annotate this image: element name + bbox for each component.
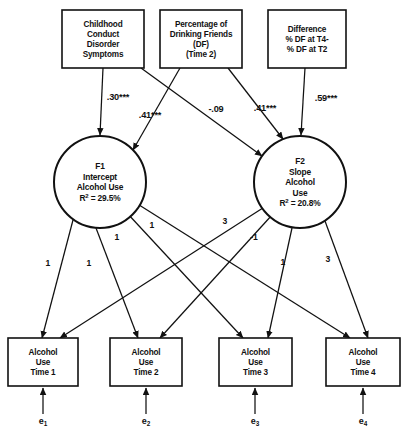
loading-line-f2-to-t4 <box>325 221 368 338</box>
loading-line-f1-to-t1 <box>42 220 73 338</box>
path-line-drinkfriends-to-f1 <box>133 68 180 150</box>
exogenous-label-difference-df: Difference% DF at T4-% DF at T2 <box>286 25 329 54</box>
loading-label-f1-to-t4: 1 <box>150 220 155 230</box>
exogenous-label-childhood-conduct: ChildhoodConductDisorderSymptoms <box>83 20 124 59</box>
exogenous-box-group: ChildhoodConductDisorderSymptomsPercenta… <box>62 10 346 68</box>
error-term-e2: e2 <box>142 416 151 427</box>
loading-label-f2-to-t1: 3 <box>223 216 228 226</box>
coefficient-label-conduct-to-f1: .30*** <box>107 92 130 102</box>
coefficient-label-drinkfriends-to-f2: .41*** <box>254 103 277 113</box>
loading-label-f2-to-t3: 1 <box>281 257 286 267</box>
error-label-group: e1e2e3e4 <box>39 416 368 427</box>
sem-diagram: ChildhoodConductDisorderSymptomsPercenta… <box>0 0 408 437</box>
coefficient-label-drinkfriends-to-f1: .41*** <box>139 110 162 120</box>
loading-label-f1-to-t1: 1 <box>46 258 51 268</box>
error-term-e1: e1 <box>39 416 48 427</box>
error-path-lines <box>43 388 363 414</box>
loading-label-f2-to-t2: -1 <box>250 232 258 242</box>
path-diagram-canvas: ChildhoodConductDisorderSymptomsPercenta… <box>0 0 408 437</box>
latent-factor-group: F1InterceptAlcohol UseR2 = 29.5%F2SlopeA… <box>54 136 346 228</box>
error-term-e3: e3 <box>251 416 260 427</box>
exogenous-box-childhood-conduct <box>62 10 144 68</box>
error-term-e4: e4 <box>359 416 368 427</box>
path-line-difference-to-f2 <box>301 68 305 135</box>
coefficient-label-difference-to-f2: .59*** <box>315 93 338 103</box>
indicator-box-group: AlcoholUseTime 1AlcoholUseTime 2AlcoholU… <box>8 338 400 386</box>
loading-label-f1-to-t3: 1 <box>115 232 120 242</box>
path-line-conduct-to-f1 <box>100 68 103 135</box>
loading-label-f1-to-t2: 1 <box>87 258 92 268</box>
coefficient-label-conduct-to-f2: -.09 <box>208 104 223 114</box>
loading-line-f2-to-t3 <box>268 228 292 338</box>
loading-line-f1-to-t2 <box>96 228 138 338</box>
loading-label-f2-to-t4: 3 <box>326 254 331 264</box>
exogenous-box-drinking-friends <box>160 10 242 68</box>
